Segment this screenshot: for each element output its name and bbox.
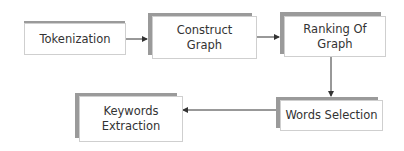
node-box: Ranking Of Graph: [284, 16, 386, 57]
node-box: Construct Graph: [152, 16, 257, 59]
node-box: Words Selection: [280, 100, 383, 131]
node-label-line-2: Graph: [317, 37, 352, 52]
node-label-line-1: Construct: [177, 23, 233, 38]
node-box: Tokenization: [24, 23, 126, 55]
node-label-line-2: Graph: [187, 38, 222, 53]
node-label-line-1: Ranking Of: [303, 22, 366, 37]
node-label: Tokenization: [39, 32, 110, 47]
node-label-line-2: Extraction: [102, 119, 161, 134]
node-label-line-1: Keywords: [103, 104, 158, 119]
node-label: Words Selection: [285, 108, 377, 123]
node-box: Keywords Extraction: [79, 96, 183, 142]
